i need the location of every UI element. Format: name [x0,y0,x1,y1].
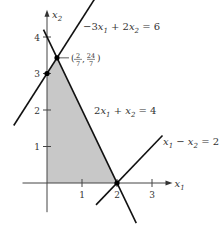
label-line-2: 2x1 + x2 = 4 [94,105,156,119]
x-axis-label: x1 [175,178,185,192]
y-tick-label: 3 [34,69,40,79]
label-line-3: x1 − x2 = 2 [163,136,219,150]
feasible-region [47,58,117,183]
point-label: (27,247) [71,52,101,68]
y-tick-label: 1 [34,142,40,152]
x-tick-label: 1 [79,190,85,200]
point-label-paren-open: ( [71,53,75,63]
x-tick-label: 3 [149,190,155,200]
point-label-frac2-num: 24 [87,52,95,60]
x-axis-arrow [166,181,173,186]
x-tick-label: 2 [114,190,120,200]
y-tick-label: 4 [34,33,40,43]
point-label-frac2-den: 7 [89,60,93,68]
vertex-point [54,55,59,60]
vertex-point [114,180,119,185]
y-tick-label: 2 [34,106,40,116]
point-label-comma: , [82,54,85,64]
label-line-1: −3x1 + 2x2 = 6 [83,21,160,35]
point-label-frac1-den: 7 [76,60,80,68]
point-label-frac1-num: 2 [76,52,80,60]
vertex-point [44,71,49,76]
chart: 1231234x1x2 −3x1 + 2x2 = 62x1 + x2 = 4x1… [0,0,219,228]
point-label-paren-close: ) [97,53,101,63]
y-axis-label: x2 [52,9,63,23]
y-axis-arrow [45,10,50,17]
